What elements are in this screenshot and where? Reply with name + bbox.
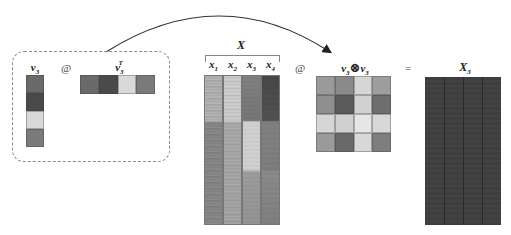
outer-product-cell — [316, 114, 335, 133]
outer-product-cell — [335, 76, 354, 95]
outer-product-cell — [335, 95, 354, 114]
outer-product-cell — [335, 114, 354, 133]
outer-product-cell — [372, 76, 391, 95]
column-vector — [26, 75, 44, 147]
result-divider — [482, 77, 483, 225]
outer-product-cell — [354, 95, 373, 114]
vector-cell — [136, 75, 155, 94]
column-vector-label: v3 — [22, 61, 48, 76]
vector-cell — [80, 75, 99, 94]
outer-product-label: v3⊗v3 — [325, 60, 385, 77]
outer-product-cell — [354, 114, 373, 133]
outer-product-cell — [316, 95, 335, 114]
vector-cell — [26, 111, 44, 129]
vector-cell — [26, 75, 44, 93]
equals-symbol: = — [398, 62, 418, 74]
result-divider — [463, 77, 464, 225]
result-label: X3 — [450, 60, 480, 76]
x-matrix-title: X — [228, 38, 254, 53]
outer-product-cell — [335, 133, 354, 152]
result-matrix — [425, 77, 501, 225]
matmul-symbol-2: @ — [290, 62, 310, 74]
x-column-4 — [261, 75, 280, 225]
row-vector — [80, 75, 155, 94]
outer-product-grid — [316, 76, 391, 152]
outer-product-cell — [316, 76, 335, 95]
vector-cell — [26, 129, 44, 147]
vector-cell — [26, 93, 44, 111]
vector-cell — [99, 75, 118, 94]
outer-product-cell — [354, 133, 373, 152]
x-matrix — [204, 75, 279, 225]
outer-product-cell — [372, 133, 391, 152]
x-column-label: x4 — [261, 58, 280, 73]
x-column-label: x3 — [242, 58, 261, 73]
x-column-1 — [204, 75, 223, 225]
x-column-labels: x1 x2 x3 x4 — [204, 58, 280, 72]
result-divider — [444, 77, 445, 225]
matmul-symbol: @ — [56, 62, 76, 74]
x-column-label: x2 — [223, 58, 242, 73]
row-vector-label: v3T — [104, 59, 134, 76]
x-column-2 — [223, 75, 242, 225]
vector-cell — [118, 75, 136, 94]
outer-product-cell — [372, 95, 391, 114]
x-column-label: x1 — [204, 58, 223, 73]
otimes-icon: ⊗ — [350, 60, 361, 75]
outer-product-cell — [372, 114, 391, 133]
outer-product-cell — [354, 76, 373, 95]
outer-product-cell — [316, 133, 335, 152]
x-column-3 — [242, 75, 261, 225]
